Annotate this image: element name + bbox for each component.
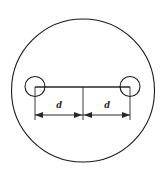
- dimension-label-right: d: [104, 98, 110, 110]
- figure-container: d d: [0, 0, 167, 180]
- diagram-canvas: d d: [0, 0, 167, 180]
- dimension-label-left: d: [56, 98, 62, 110]
